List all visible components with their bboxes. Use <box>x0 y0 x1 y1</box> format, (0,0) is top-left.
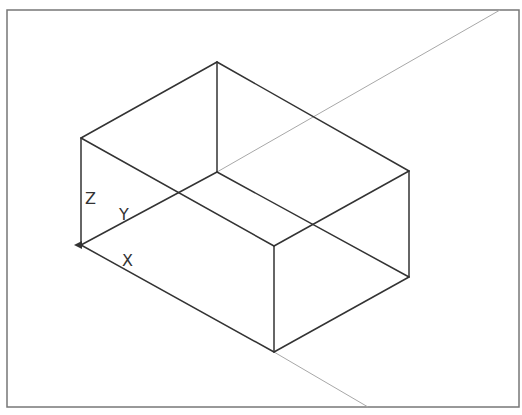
viewport-frame <box>7 10 519 407</box>
construction-line-back <box>217 10 500 172</box>
drawing-canvas: Z Y X <box>0 0 522 415</box>
construction-line-front <box>274 352 368 407</box>
edge-top-right-front <box>274 171 409 246</box>
ucs-label-y: Y <box>118 205 129 224</box>
box-wireframe[interactable] <box>81 62 409 352</box>
edge-top-left-back <box>81 62 217 138</box>
ucs-label-z: Z <box>85 189 96 208</box>
drawing-viewport[interactable]: Z Y X <box>0 0 522 415</box>
edge-bottom-left-front <box>81 245 274 352</box>
ucs-origin-marker-icon <box>74 241 82 249</box>
edge-bottom-left-back <box>81 172 217 245</box>
ucs-label-x: X <box>122 251 133 270</box>
edge-bottom-right-front <box>274 277 409 352</box>
